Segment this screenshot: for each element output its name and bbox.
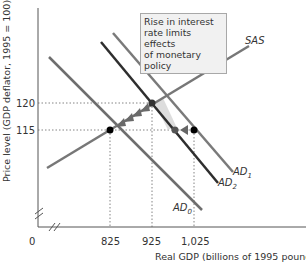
x-tick-925: 925 xyxy=(142,236,161,247)
point-ad1-115 xyxy=(191,127,198,134)
y-tick-115: 115 xyxy=(16,125,35,136)
ad1-label: AD1 xyxy=(232,166,252,180)
y-tick-120: 120 xyxy=(16,98,35,109)
annotation-box: Rise in interest rate limits effects of … xyxy=(140,13,227,74)
equilibrium-point-825-115 xyxy=(107,127,114,134)
x-tick-0: 0 xyxy=(29,236,35,247)
point-ad2-115 xyxy=(172,127,179,134)
annotation-line-1: Rise in interest xyxy=(144,16,223,27)
y-axis-break-icon xyxy=(35,208,43,219)
x-tick-825: 825 xyxy=(101,236,120,247)
ad0-curve xyxy=(49,57,202,210)
annotation-line-2: rate limits effects xyxy=(144,27,223,49)
ad2-label: AD2 xyxy=(217,177,238,191)
x-tick-1025: 1,025 xyxy=(181,236,210,247)
annotation-line-3: of monetary policy xyxy=(144,49,223,71)
left-arrow-icon xyxy=(180,125,188,135)
ad0-label: AD0 xyxy=(172,202,193,216)
y-axis-title: Price level (GDP deflator, 1995 = 100) xyxy=(1,0,12,182)
equilibrium-point-925-120 xyxy=(149,100,156,107)
sas-label: SAS xyxy=(245,35,265,46)
x-axis-title: Real GDP (billions of 1995 pounds) xyxy=(155,251,306,262)
